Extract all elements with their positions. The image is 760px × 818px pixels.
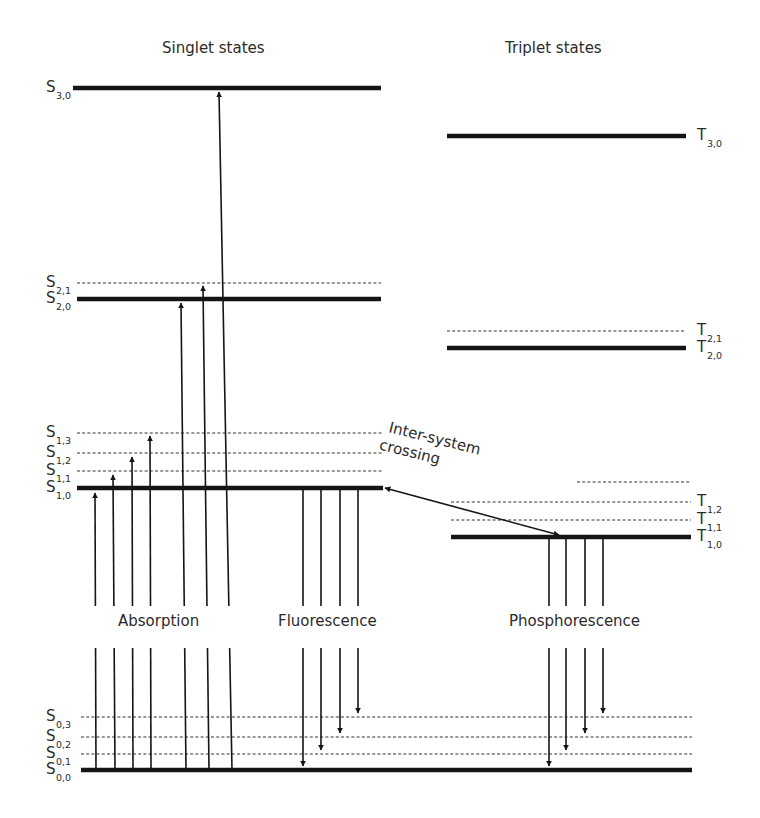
absorption-arrow [113, 475, 114, 606]
absorption-arrow [181, 303, 184, 606]
state-label: S [46, 461, 56, 479]
absorption-arrow-lower [185, 648, 186, 770]
state-label-subscript: 1,0 [707, 539, 722, 550]
state-label: S [46, 727, 56, 745]
state-label-subscript: 0,1 [56, 756, 71, 767]
state-label-subscript: 1,3 [56, 435, 71, 446]
singlet-energy-levels: S3,0S2,1S2,0S1,3S1,2S1,1S1,0S0,3S0,2S0,1… [46, 78, 692, 783]
triplet-energy-levels: T3,0T2,1T2,0T1,2T1,1T1,0 [447, 126, 722, 550]
inter-system-crossing-arrow [385, 488, 559, 535]
state-label: S [46, 478, 56, 496]
state-label-subscript: 1,2 [56, 455, 71, 466]
state-label-subscript: 2,0 [56, 301, 71, 312]
jablonski-diagram: Singlet states Triplet states S3,0S2,1S2… [0, 0, 760, 818]
absorption-arrow-lower [114, 648, 115, 770]
absorption-label: Absorption [118, 612, 199, 630]
triplet-states-title: Triplet states [504, 39, 602, 57]
state-label-subscript: 2,0 [707, 350, 722, 361]
state-label-subscript: 0,2 [56, 739, 71, 750]
state-label: T [696, 492, 707, 510]
isc-label: Inter-system crossing [378, 417, 483, 477]
absorption-arrow-lower [207, 648, 209, 770]
state-label-subscript: 0,3 [56, 719, 71, 730]
state-label-subscript: 2,1 [56, 285, 71, 296]
absorption-arrow [150, 436, 151, 606]
state-label: S [46, 289, 56, 307]
state-label-subscript: 2,1 [707, 333, 722, 344]
absorption-arrow-lower [230, 648, 232, 770]
state-label: T [696, 527, 707, 545]
state-label: S [46, 707, 56, 725]
isc-double-arrow [385, 488, 559, 535]
state-label-subscript: 3,0 [56, 90, 71, 101]
state-label: T [696, 321, 707, 339]
state-label: T [696, 510, 707, 528]
phosphorescence-arrows [549, 539, 603, 766]
absorption-arrow [203, 286, 207, 606]
state-label: S [46, 423, 56, 441]
state-label: T [696, 126, 707, 144]
absorption-arrow [219, 92, 229, 606]
state-label-subscript: 3,0 [707, 138, 722, 149]
state-label-subscript: 1,1 [56, 473, 71, 484]
absorption-arrows [95, 92, 232, 770]
state-label: S [46, 443, 56, 461]
singlet-states-title: Singlet states [162, 39, 265, 57]
state-label: S [46, 760, 56, 778]
state-label: S [46, 78, 56, 96]
state-label-subscript: 1,0 [56, 490, 71, 501]
fluorescence-label: Fluorescence [278, 612, 377, 630]
state-label: T [696, 338, 707, 356]
phosphorescence-label: Phosphorescence [509, 612, 640, 630]
state-label-subscript: 1,2 [707, 504, 722, 515]
state-label-subscript: 1,1 [707, 522, 722, 533]
state-label-subscript: 0,0 [56, 772, 71, 783]
